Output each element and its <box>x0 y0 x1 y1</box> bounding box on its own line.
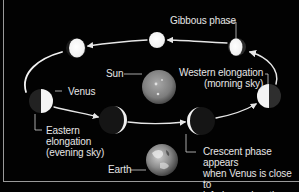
label-earth: Earth <box>108 164 131 175</box>
label-crescent-phase: Crescent phase appears when Venus is clo… <box>203 146 299 192</box>
venus-eastern-elongation-icon <box>29 89 53 113</box>
venus-gibbous-left-icon <box>66 38 86 58</box>
venus-crescent-right-icon <box>187 107 215 135</box>
label-sun: Sun <box>106 68 124 79</box>
venus-full-icon <box>149 32 165 48</box>
venus-phases-diagram: Gibbous phase Sun Venus Western elongati… <box>0 0 299 192</box>
label-eastern-elongation: Eastern elongation (evening sky) <box>46 125 104 158</box>
label-western-elongation: Western elongation (morning sky) <box>179 67 263 89</box>
label-gibbous-phase: Gibbous phase <box>170 15 236 26</box>
sun-icon <box>142 70 176 104</box>
label-venus: Venus <box>68 86 95 97</box>
venus-gibbous-icon <box>228 38 246 56</box>
earth-icon <box>146 144 178 176</box>
